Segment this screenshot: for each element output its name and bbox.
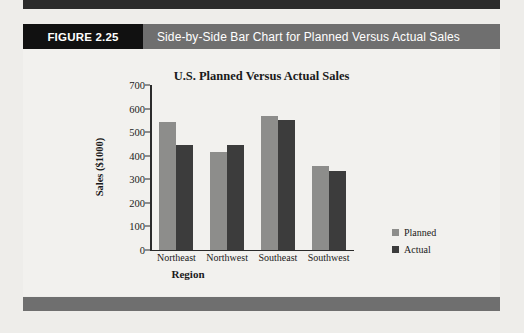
plot-area: Sales ($1000) 7006005004003002001000 Nor… [23, 49, 500, 296]
x-tick-label: Southwest [303, 252, 354, 263]
bar-actual-northwest[interactable] [227, 145, 244, 250]
bar-actual-northeast[interactable] [176, 145, 193, 250]
bar-planned-northeast[interactable] [159, 122, 176, 250]
legend-label: Actual [404, 244, 431, 255]
x-axis-tick-labels: NortheastNorthwestSoutheastSouthwest [151, 252, 354, 263]
bar-planned-southwest[interactable] [312, 166, 329, 250]
figure-caption-row: FIGURE 2.25 Side-by-Side Bar Chart for P… [23, 24, 500, 49]
x-axis-label: Region [23, 268, 353, 280]
y-tick-label: 400 [129, 150, 145, 161]
chart-legend: PlannedActual [392, 227, 436, 261]
legend-swatch-icon [392, 246, 399, 253]
y-axis-ticks: 7006005004003002001000 [109, 85, 149, 250]
bar-group [253, 85, 304, 250]
x-tick-label: Northeast [151, 252, 202, 263]
bar-group [303, 85, 354, 250]
bar-groups [151, 85, 354, 250]
x-tick-label: Northwest [202, 252, 253, 263]
y-axis-label: Sales ($1000) [94, 138, 105, 197]
figure-number-badge: FIGURE 2.25 [23, 24, 143, 49]
legend-item-planned[interactable]: Planned [392, 227, 436, 238]
bar-actual-southwest[interactable] [329, 171, 346, 250]
legend-swatch-icon [392, 229, 399, 236]
y-tick-label: 200 [129, 197, 145, 208]
y-tick-label: 500 [129, 127, 145, 138]
top-accent-bar [23, 0, 500, 9]
x-tick-label: Southeast [253, 252, 304, 263]
bar-group [151, 85, 202, 250]
y-tick-label: 100 [129, 221, 145, 232]
bottom-accent-bar [23, 297, 500, 311]
legend-label: Planned [404, 227, 436, 238]
bar-planned-southeast[interactable] [261, 116, 278, 250]
figure-page: FIGURE 2.25 Side-by-Side Bar Chart for P… [0, 0, 524, 333]
figure-caption-text: Side-by-Side Bar Chart for Planned Versu… [143, 24, 500, 49]
chart-panel: U.S. Planned Versus Actual Sales Sales (… [23, 49, 500, 296]
y-tick-label: 600 [129, 103, 145, 114]
bar-planned-northwest[interactable] [210, 152, 227, 250]
y-tick-label: 300 [129, 174, 145, 185]
y-tick-label: 700 [129, 80, 145, 91]
bar-actual-southeast[interactable] [278, 120, 295, 250]
bar-group [202, 85, 253, 250]
legend-item-actual[interactable]: Actual [392, 244, 436, 255]
